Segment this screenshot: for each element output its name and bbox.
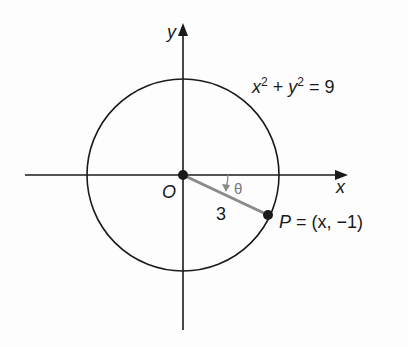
y-axis-label: y (165, 22, 177, 42)
radius-label: 3 (216, 204, 226, 224)
y-axis-arrow-icon (178, 23, 188, 36)
point-p (263, 210, 273, 220)
origin-label: O (162, 182, 176, 202)
x-axis-label: x (335, 177, 346, 197)
origin-point (178, 170, 188, 180)
point-p-label: P = (x, −1) (279, 212, 363, 232)
angle-arrow-icon (222, 184, 230, 192)
angle-label: θ (234, 180, 242, 197)
equation-label: x2 + y2 = 9 (251, 75, 334, 97)
unit-circle-diagram: y x O 3 θ x2 + y2 = 9 P = (x, −1) (0, 0, 408, 347)
